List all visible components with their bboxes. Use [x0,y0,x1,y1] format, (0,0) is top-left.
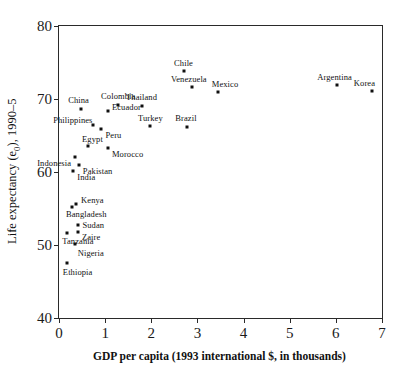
data-point[interactable] [75,203,78,206]
data-point[interactable] [72,169,75,172]
data-point-label: Bangladesh [66,209,107,219]
data-point[interactable] [77,163,80,166]
data-point-label: Nigeria [78,248,104,258]
y-tick-mark [54,245,59,246]
data-point-label: China [68,95,89,105]
data-point[interactable] [336,84,339,87]
x-tick-label: 1 [101,325,109,342]
data-point[interactable] [183,70,186,73]
data-point-label: Chile [174,58,193,68]
y-tick-label: 80 [37,18,52,35]
x-axis-title: GDP per capita (1993 international $, in… [58,350,381,362]
data-point[interactable] [106,110,109,113]
data-point-label: Mexico [212,79,239,89]
data-point-label: India [77,172,95,182]
data-point[interactable] [66,231,69,234]
x-tick-label: 3 [194,325,202,342]
data-point[interactable] [186,125,189,128]
x-tick-label: 0 [55,325,63,342]
data-point-label: Peru [105,130,121,140]
y-tick-mark [54,99,59,100]
data-point-label: Korea [354,78,375,88]
data-point-label: Thailand [126,92,157,102]
data-point-label: Ethiopia [63,267,93,277]
y-tick-label: 40 [37,310,52,327]
x-tick-label: 4 [240,325,248,342]
data-point-label: Egypt [82,134,103,144]
data-point[interactable] [65,261,68,264]
x-tick-label: 5 [286,325,294,342]
data-point-label: Kenya [81,195,104,205]
x-tick-mark [105,318,106,323]
data-point[interactable] [80,108,83,111]
y-tick-mark [54,172,59,173]
data-point-label: Argentina [317,72,352,82]
y-tick-label: 70 [37,91,52,108]
data-point-label: Ecuador [112,102,141,112]
data-point[interactable] [76,230,79,233]
data-point-label: Morocco [112,149,143,159]
x-tick-mark [290,318,291,323]
x-tick-mark [382,318,383,323]
data-point[interactable] [216,91,219,94]
plot-area: 405060708001234567ChinaColombiaThailandE… [58,25,383,319]
data-point-label: Philippines [53,115,92,125]
x-tick-label: 7 [378,325,386,342]
data-point[interactable] [73,242,76,245]
data-point-label: Turkey [138,113,163,123]
data-point-label: Indonesia [37,158,71,168]
y-axis-subscript: 0 [12,146,22,150]
data-point[interactable] [77,223,80,226]
y-axis-title: Life expectancy (e0), 1990–5 [4,25,24,317]
x-tick-label: 2 [148,325,156,342]
y-tick-label: 50 [37,237,52,254]
data-point-label: Tanzania [62,236,93,246]
data-point[interactable] [190,86,193,89]
data-point-label: Brazil [175,113,196,123]
data-point[interactable] [100,127,103,130]
x-tick-mark [197,318,198,323]
y-tick-mark [54,26,59,27]
x-tick-mark [336,318,337,323]
x-tick-mark [151,318,152,323]
data-point-label: Sudan [82,220,104,230]
y-axis-title-text: Life expectancy (e0), 1990–5 [6,98,23,243]
data-point[interactable] [370,89,373,92]
x-tick-label: 6 [332,325,340,342]
scatter-plot-figure: Life expectancy (e0), 1990–5 40506070800… [0,0,406,375]
data-point[interactable] [106,146,109,149]
data-point[interactable] [148,125,151,128]
x-tick-mark [244,318,245,323]
data-point[interactable] [87,144,90,147]
data-point-label: Venezuela [171,74,207,84]
data-point[interactable] [74,155,77,158]
x-tick-mark [59,318,60,323]
